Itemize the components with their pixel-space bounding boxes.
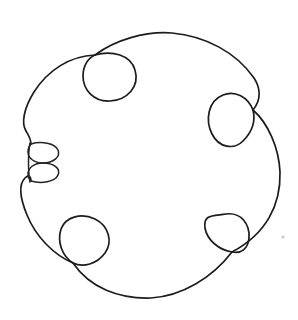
scan-speck [281,235,284,238]
main-circle-arc-bottom [73,252,232,298]
lobe-right [208,93,253,146]
figure-canvas [0,0,298,320]
figure-eight-stem [29,143,31,182]
figure-eight-lower-loop [28,163,59,182]
main-circle-arc-lower-left [21,176,73,263]
lobe-top-left [83,53,136,101]
line-drawing-svg [0,0,298,320]
figure-eight-upper-loop [28,143,59,163]
main-circle-arc-right [232,110,280,252]
lobe-bottom-left [60,216,109,265]
